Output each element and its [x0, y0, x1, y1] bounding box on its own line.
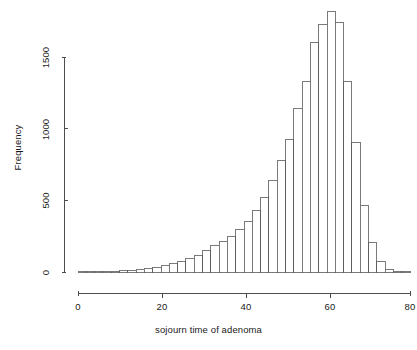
histogram-bar: [385, 269, 393, 272]
y-axis: Frequency 0 500 1000 1500: [0, 0, 80, 350]
x-tick-label-0: 0: [63, 301, 93, 312]
y-tick-label-0: 0: [40, 256, 51, 290]
histogram-bar: [369, 243, 377, 272]
histogram-bar: [352, 142, 360, 272]
y-tick-label-1000: 1000: [40, 112, 51, 146]
histogram-bar: [136, 270, 144, 272]
histogram-bar: [377, 262, 385, 272]
histogram-bar: [252, 210, 260, 272]
histogram-bar: [219, 241, 227, 272]
histogram-bar: [319, 24, 327, 272]
histogram-bar: [294, 109, 302, 272]
histogram-bar: [203, 251, 211, 272]
histogram-bar: [335, 23, 343, 272]
y-tick-label-1500: 1500: [40, 41, 51, 75]
histogram-bar: [120, 271, 128, 272]
histogram-bar: [236, 229, 244, 272]
x-axis-line: [78, 291, 410, 298]
histogram-bar: [277, 161, 285, 272]
histogram-bar: [393, 271, 401, 272]
histogram-bar: [269, 180, 277, 272]
y-tick-label-500: 500: [40, 184, 51, 218]
y-axis-title: Frequency: [12, 98, 23, 198]
x-tick-label-20: 20: [147, 301, 177, 312]
x-tick-label-60: 60: [315, 301, 345, 312]
histogram-bar: [211, 245, 219, 272]
histogram-bar: [178, 261, 186, 272]
histogram-bar: [111, 271, 119, 272]
histogram-bar: [194, 255, 202, 272]
x-tick-label-40: 40: [231, 301, 261, 312]
histogram-bars: [78, 11, 410, 272]
histogram-bar: [310, 43, 318, 272]
histogram-bar: [302, 81, 310, 272]
x-axis-title: sojourn time of adenoma: [0, 324, 417, 335]
histogram-bar: [327, 11, 335, 272]
histogram-bar: [128, 270, 136, 272]
histogram-bar: [227, 236, 235, 272]
histogram-bar: [103, 271, 111, 272]
histogram-bar: [186, 258, 194, 272]
histogram-bar: [144, 269, 152, 272]
histogram-bar: [169, 264, 177, 272]
histogram-bar: [344, 81, 352, 272]
histogram-bar: [244, 222, 252, 272]
histogram-bar: [161, 266, 169, 272]
histogram-bar: [286, 139, 294, 272]
histogram-bar: [95, 271, 103, 272]
histogram-bar: [261, 197, 269, 272]
histogram-bar: [153, 268, 161, 272]
histogram-figure: Frequency 0 500 1000 1500 0 20 40 60 80 …: [0, 0, 417, 350]
histogram-bar: [360, 205, 368, 272]
x-tick-label-80: 80: [395, 301, 417, 312]
